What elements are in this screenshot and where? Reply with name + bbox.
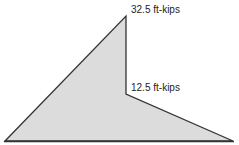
step-moment-label: 12.5 ft-kips [131, 82, 180, 94]
moment-diagram: 32.5 ft-kips 12.5 ft-kips [0, 0, 239, 145]
peak-moment-label: 32.5 ft-kips [131, 4, 180, 16]
moment-area-polygon [5, 16, 233, 141]
moment-diagram-shape [0, 0, 239, 145]
